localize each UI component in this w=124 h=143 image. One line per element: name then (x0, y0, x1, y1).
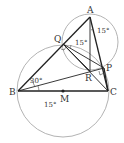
label-M: M (60, 94, 69, 104)
right-angle-Q (61, 47, 66, 50)
label-R: R (85, 73, 92, 83)
angle-label-Q: 15° (75, 39, 87, 47)
angle-label-B-upper: 30° (30, 77, 42, 85)
angle-label-B-lower: 15° (44, 101, 56, 109)
angle-arc-B-lower (38, 86, 39, 91)
label-Q: Q (54, 34, 61, 44)
label-C: C (110, 87, 117, 97)
angle-label-A: 15° (97, 27, 109, 35)
label-B: B (9, 87, 16, 97)
point-M-dot (61, 89, 64, 92)
geometry-diagram: A B C M P Q R 15° 15° 30° 15° (0, 0, 124, 143)
label-P: P (106, 63, 112, 73)
label-A: A (86, 5, 94, 15)
